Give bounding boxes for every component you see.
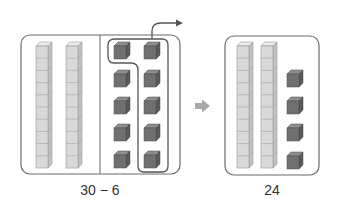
left-panel-label: 30 − 6 xyxy=(80,182,120,198)
tens-rod xyxy=(237,42,253,168)
unit-cube xyxy=(144,70,160,87)
unit-cube xyxy=(114,151,130,168)
tens-rod xyxy=(261,42,277,168)
tens-rod xyxy=(66,42,82,168)
unit-cube xyxy=(144,97,160,114)
left-panel: 30 − 6 xyxy=(21,20,183,199)
unit-cube xyxy=(144,42,160,59)
unit-cube xyxy=(114,97,130,114)
unit-cube xyxy=(287,124,303,141)
tens-rod xyxy=(36,42,52,168)
unit-cube xyxy=(287,70,303,87)
subtraction-diagram: 30 − 6 24 xyxy=(0,0,337,212)
unit-cube xyxy=(114,124,130,141)
unit-cube xyxy=(114,42,130,59)
right-arrow-icon xyxy=(195,100,210,113)
unit-cube xyxy=(114,70,130,87)
unit-cube xyxy=(287,97,303,114)
unit-cube xyxy=(144,124,160,141)
right-panel: 24 xyxy=(225,36,319,198)
right-panel-label: 24 xyxy=(264,182,280,198)
unit-cube xyxy=(287,152,303,169)
unit-cube xyxy=(144,151,160,168)
